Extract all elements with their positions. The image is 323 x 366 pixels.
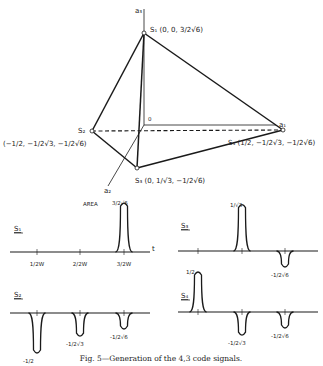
signal-name: S₄ [181, 292, 188, 300]
vertex-label-s4: S₄ (1/2, −1/2√3, −1/2√6) [228, 139, 315, 147]
signal-plot-2: S₃1/√3-1/2√6 [178, 202, 318, 278]
origin-label: 0 [148, 116, 152, 122]
edge-s2-s4 [92, 130, 283, 131]
pulse-value: -1/2√3 [228, 340, 246, 346]
vertex-label-s3: S₃ (0, 1/√3, −1/2√6) [135, 177, 205, 185]
area-label: AREA [83, 201, 98, 207]
tetrahedron-diagram [90, 9, 285, 186]
edge-s3-s4 [137, 130, 283, 168]
pulse-value: 3/2√6 [112, 200, 128, 206]
signal-name: S₃ [181, 222, 188, 230]
pulse [72, 313, 89, 336]
pulse [116, 203, 133, 252]
signal-name: S₂ [14, 291, 21, 299]
tick-label: 3/2W [117, 261, 132, 267]
vertex-label-s2-coords: (−1/2, −1/2√3, −1/2√6) [3, 140, 87, 148]
pulse-value: -1/2√6 [110, 334, 128, 340]
pulse [29, 313, 46, 353]
edge-s1-s3 [137, 33, 144, 168]
vertex-label-s1: S₁ (0, 0, 3/2√6) [150, 26, 203, 34]
tick-label: 1/2W [30, 261, 45, 267]
signal-plot-4: S₄1/2-1/2√3-1/2√6 [178, 269, 318, 346]
pulse-value: -1/2 [23, 358, 34, 364]
signal-name: S₁ [14, 225, 21, 233]
vertex-s2 [90, 129, 94, 133]
figure-canvas: a₃ a₁ a₂ 0 S₁ (0, 0, 3/2√6) S₂ (−1/2, −1… [0, 0, 323, 366]
time-axis-label: t [152, 245, 155, 253]
axis-label-a1: a₁ [279, 121, 286, 129]
pulse-value: -1/2√6 [271, 272, 289, 278]
vertex-s1 [142, 31, 146, 35]
signal-plots: S₁3/2√61/2W2/2W3/2WtAREAS₃1/√3-1/2√6S₂-1… [10, 200, 318, 364]
pulse-value: -1/2√6 [271, 333, 289, 339]
pulse-value: -1/2√3 [66, 341, 84, 347]
pulse [234, 205, 251, 251]
vertex-s3 [135, 166, 139, 170]
axis-label-a3: a₃ [135, 7, 142, 15]
pulse-value: 1/2 [186, 269, 195, 275]
tick-label: 2/2W [73, 261, 88, 267]
edge-s1-s2 [92, 33, 144, 131]
pulse [234, 312, 251, 335]
figure-caption: Fig. 5—Generation of the 4,3 code signal… [80, 354, 242, 363]
edge-s2-s3 [92, 131, 137, 168]
vertex-label-s2-name: S₂ [78, 127, 85, 135]
pulse [190, 272, 207, 312]
pulse-value: 1/√3 [230, 202, 243, 208]
edge-s1-s4 [144, 33, 283, 130]
signal-plot-1: S₁3/2√61/2W2/2W3/2WtAREA [10, 200, 155, 267]
axis-label-a2: a₂ [104, 187, 111, 195]
